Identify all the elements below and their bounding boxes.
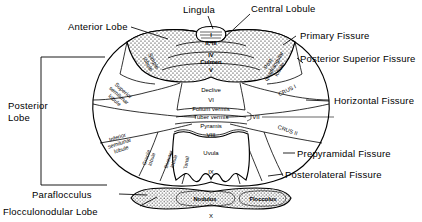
label-primary-fissure: Primary Fissure	[300, 30, 370, 41]
label-vermis-culmen-v: V	[209, 67, 213, 73]
diagram-canvas: Anterior Lobe Lingula Central Lobule Pri…	[0, 0, 422, 222]
label-vermis-pyramis: Pyramis	[200, 123, 222, 129]
label-vermis-declive-numeral: VI	[208, 97, 214, 103]
label-vermis-nodulus: Nodulus	[193, 196, 216, 202]
label-posterior-lobe-line2: Lobe	[8, 112, 30, 123]
label-vermis-uvula-numeral: IX	[208, 169, 214, 175]
label-vermis-central-lobule: II, III	[205, 40, 217, 46]
label-anterior-lobe: Anterior Lobe	[68, 21, 128, 32]
label-central-lobule: Central Lobule	[251, 3, 316, 14]
label-flocculonodular-lobe: Flocculonodular Lobe	[3, 206, 98, 217]
label-prepyramidal-fissure: Prepyramidal Fissure	[297, 148, 391, 159]
label-paraflocculus: Paraflocculus	[32, 189, 92, 200]
label-vermis-declive: Declive	[201, 87, 221, 93]
label-vermis-tuber-numeral: VII	[252, 114, 260, 120]
label-vermis-uvula: Uvula	[203, 150, 219, 156]
label-lingula: Lingula	[183, 4, 216, 15]
cerebellum-diagram-figure: Anterior Lobe Lingula Central Lobule Pri…	[0, 0, 422, 222]
label-vermis-folium: Folium vermis	[192, 106, 229, 112]
label-vermis-tuber: Tuber vermis	[194, 114, 229, 120]
label-posterior-lobe-line1: Posterior	[8, 100, 48, 111]
label-posterolateral-fissure: Posterolateral Fissure	[285, 169, 382, 180]
label-vermis-culmen-iv: IV	[208, 52, 214, 58]
label-horizontal-fissure: Horizontal Fissure	[334, 95, 414, 106]
label-posterior-superior-fissure: Posterior Superior Fissure	[300, 53, 416, 64]
label-vermis-nodulus-numeral: X	[209, 213, 213, 219]
label-flocculus: Flocculus	[249, 196, 276, 202]
label-vermis-culmen: Culmen	[200, 59, 222, 65]
label-vermis-pyramis-numeral: VIII	[206, 132, 215, 138]
